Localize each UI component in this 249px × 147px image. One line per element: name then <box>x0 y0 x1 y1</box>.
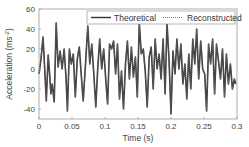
y-axis-title: Acceleration (ms-2) <box>4 28 14 100</box>
y-tick-label: 40 <box>26 25 35 34</box>
x-tick-label: 0 <box>37 122 42 131</box>
y-axis-title-base: Acceleration (ms <box>4 36 14 99</box>
acceleration-chart: 00.050.10.150.20.250.3 6040200-20-40 Tim… <box>0 0 249 147</box>
legend: Theoretical Reconstructed <box>87 11 242 24</box>
x-tick-label: 0.3 <box>231 122 243 131</box>
y-axis-title-close: ) <box>4 28 14 31</box>
legend-theoretical-label: Theoretical <box>114 13 156 23</box>
legend-reconstructed-label: Reconstructed <box>187 13 242 23</box>
y-tick-label: 20 <box>26 45 35 54</box>
x-tick-label: 0.15 <box>130 122 146 131</box>
x-tick-label: 0.1 <box>99 122 111 131</box>
y-tick-label: 0 <box>31 65 36 74</box>
x-tick-label: 0.05 <box>64 122 80 131</box>
y-tick-label: -20 <box>23 85 35 94</box>
x-tick-label: 0.2 <box>165 122 177 131</box>
svg-text:Acceleration (ms-2): Acceleration (ms-2) <box>4 28 14 100</box>
y-tick-label: -40 <box>23 105 35 114</box>
x-axis-title: Time (s) <box>123 133 154 143</box>
y-tick-label: 60 <box>26 5 35 14</box>
x-tick-label: 0.25 <box>196 122 212 131</box>
